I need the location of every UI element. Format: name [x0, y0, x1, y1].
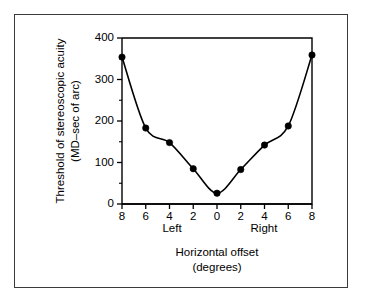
x-tick-label: 4	[166, 210, 173, 222]
data-point-marker	[119, 54, 125, 60]
data-point-marker	[285, 123, 291, 129]
x-tick-label: 4	[261, 210, 268, 222]
data-point-marker	[214, 190, 220, 196]
x-axis-title-line2: (degrees)	[192, 261, 241, 273]
x-axis-tick-labels: 864202468	[119, 210, 315, 222]
y-axis-title-line1: Threshold of stereoscopic acuity	[54, 38, 66, 203]
stereoacuity-chart: 0100200300400 864202468 Left Right Horiz…	[0, 0, 368, 304]
y-axis-title: Threshold of stereoscopic acuity (MD–sec…	[54, 38, 81, 203]
x-tick-label: 8	[119, 210, 125, 222]
figure-root: 0100200300400 864202468 Left Right Horiz…	[0, 0, 368, 304]
y-tick-label: 400	[95, 31, 114, 43]
x-tick-label: 2	[238, 210, 244, 222]
x-axis-title: Horizontal offset (degrees)	[176, 246, 260, 273]
data-series	[119, 52, 315, 197]
x-axis-right-label: Right	[251, 222, 279, 234]
x-axis-side-annotations: Left Right	[162, 222, 278, 234]
x-axis-left-label: Left	[162, 222, 182, 234]
data-point-marker	[309, 52, 315, 58]
data-point-marker	[166, 139, 172, 145]
y-tick-label: 200	[95, 114, 114, 126]
plot-frame	[122, 38, 312, 204]
data-markers	[119, 52, 315, 197]
x-tick-label: 0	[214, 210, 220, 222]
y-axis-tick-labels: 0100200300400	[95, 31, 114, 209]
x-tick-label: 2	[190, 210, 196, 222]
x-axis-title-line1: Horizontal offset	[176, 246, 260, 258]
data-point-marker	[261, 142, 267, 148]
x-axis-ticks	[122, 204, 312, 209]
x-tick-label: 8	[309, 210, 315, 222]
y-axis-ticks	[117, 38, 122, 204]
data-curve	[122, 55, 312, 193]
data-point-marker	[190, 166, 196, 172]
y-axis-title-line2: (MD–sec of arc)	[69, 80, 81, 162]
y-tick-label: 0	[108, 197, 114, 209]
data-point-marker	[238, 166, 244, 172]
x-tick-label: 6	[285, 210, 291, 222]
data-point-marker	[143, 125, 149, 131]
x-tick-label: 6	[143, 210, 149, 222]
y-tick-label: 100	[95, 156, 114, 168]
y-tick-label: 300	[95, 73, 114, 85]
